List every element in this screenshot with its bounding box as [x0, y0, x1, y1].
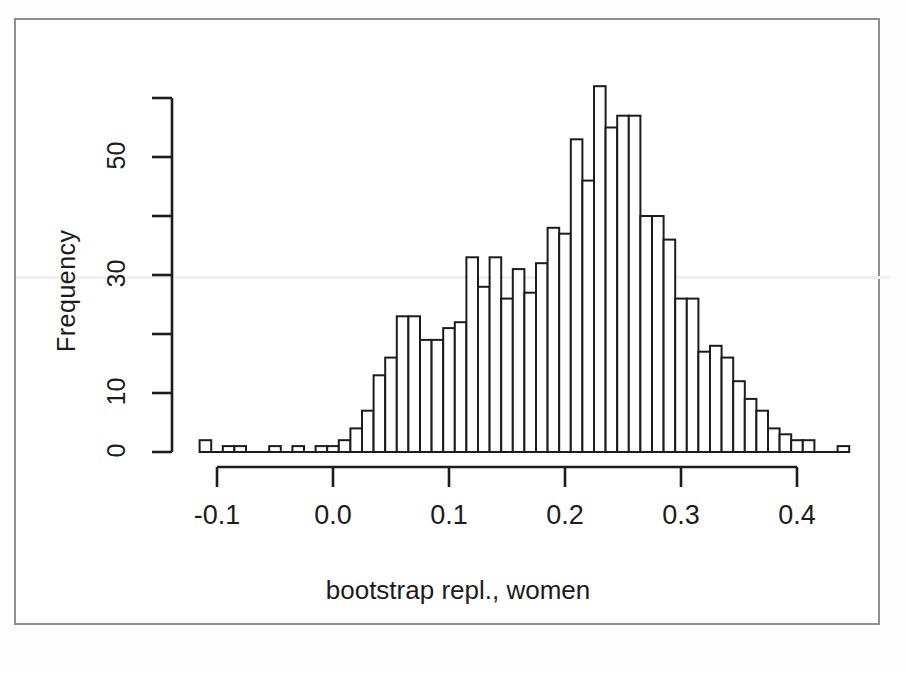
x-tick-label: 0.4	[752, 500, 842, 531]
histogram-bar	[513, 269, 525, 452]
histogram-bar	[710, 346, 722, 452]
y-tick-label: 50	[102, 128, 131, 184]
histogram-bar	[745, 399, 757, 452]
x-axis-label: bootstrap repl., women	[228, 575, 688, 606]
histogram-bar	[339, 440, 351, 452]
histogram-bar	[617, 116, 629, 452]
histogram-bar	[594, 86, 606, 452]
histogram-bar	[385, 358, 397, 452]
histogram-bar	[466, 257, 478, 452]
histogram-bar	[606, 128, 618, 453]
histogram-bar	[548, 228, 560, 452]
histogram-bar	[640, 216, 652, 452]
histogram-bar	[374, 375, 386, 452]
histogram-bar	[408, 316, 420, 452]
histogram-bar	[350, 428, 362, 452]
histogram-bar	[432, 340, 444, 452]
y-tick-label: 0	[102, 423, 131, 479]
histogram-bar	[455, 322, 467, 452]
histogram-bar	[443, 328, 455, 452]
x-tick-label: 0.1	[404, 500, 494, 531]
histogram-bar	[397, 316, 409, 452]
x-tick-label: -0.1	[172, 500, 262, 531]
histogram-bar	[733, 381, 745, 452]
histogram-bar	[756, 411, 768, 452]
histogram-bar	[490, 257, 502, 452]
histogram-bar	[687, 299, 699, 452]
histogram-bar	[501, 299, 513, 452]
histogram-bar	[582, 181, 594, 452]
histogram-bar	[420, 340, 432, 452]
x-tick-label: 0.2	[520, 500, 610, 531]
y-axis-label: Frequency	[52, 229, 81, 352]
histogram-bar	[698, 352, 710, 452]
histogram-bar	[675, 299, 687, 452]
histogram-bar	[559, 234, 571, 452]
histogram-bar	[722, 358, 734, 452]
histogram-bar	[791, 440, 803, 452]
histogram-plot	[0, 0, 906, 673]
histogram-bar	[362, 411, 374, 452]
histogram-bar	[478, 287, 490, 452]
histogram-bar	[768, 428, 780, 452]
x-tick-label: 0.0	[288, 500, 378, 531]
histogram-bar	[524, 293, 536, 452]
histogram-bar	[780, 434, 792, 452]
figure-page: 0103050-0.10.00.10.20.30.4 Frequency boo…	[0, 0, 906, 673]
histogram-bar	[536, 263, 548, 452]
histogram-bar	[803, 440, 815, 452]
histogram-bars	[200, 86, 850, 452]
histogram-bar	[200, 440, 212, 452]
y-axis	[152, 98, 172, 452]
y-tick-label: 30	[102, 246, 131, 302]
histogram-bar	[629, 116, 641, 452]
x-axis	[217, 467, 797, 487]
x-tick-label: 0.3	[636, 500, 726, 531]
histogram-bar	[664, 240, 676, 452]
histogram-bar	[571, 139, 583, 452]
y-tick-label: 10	[102, 364, 131, 420]
histogram-bar	[652, 216, 664, 452]
